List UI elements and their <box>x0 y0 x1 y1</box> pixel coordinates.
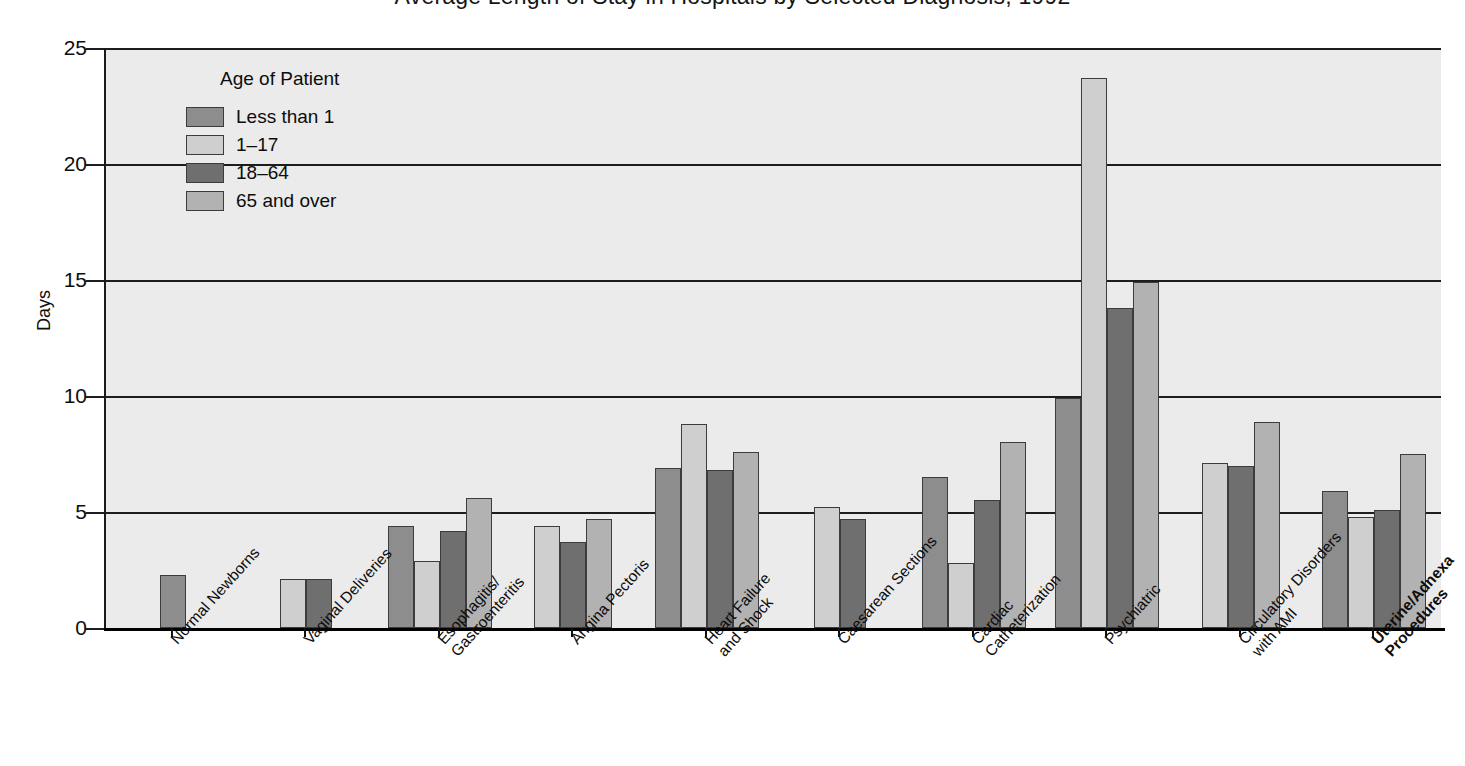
bar <box>1107 308 1133 628</box>
bar <box>1228 466 1254 628</box>
bar <box>1348 517 1374 628</box>
y-tick-label-25: 25 <box>17 37 87 58</box>
bar <box>388 526 414 628</box>
gridline-10 <box>106 396 1441 398</box>
bar <box>534 526 560 628</box>
legend-entry: 18–64 <box>186 160 436 186</box>
y-tick-label-15: 15 <box>17 269 87 290</box>
legend-swatch-icon <box>186 107 224 127</box>
legend-label: 18–64 <box>236 162 289 184</box>
legend-swatch-icon <box>186 191 224 211</box>
legend-entry: 1–17 <box>186 132 436 158</box>
y-tick-mark-0 <box>86 628 104 630</box>
y-tick-mark-5 <box>86 512 104 514</box>
bar <box>1055 398 1081 628</box>
bar <box>280 579 306 628</box>
legend-entries: Less than 11–1718–6465 and over <box>186 104 436 214</box>
y-tick-label-20: 20 <box>17 153 87 174</box>
chart-title: Average Length of Stay in Hospitals by S… <box>0 0 1465 10</box>
legend-swatch-icon <box>186 135 224 155</box>
y-tick-label-10: 10 <box>17 385 87 406</box>
legend-label: 1–17 <box>236 134 278 156</box>
bar <box>560 542 586 628</box>
legend-title: Age of Patient <box>220 68 436 90</box>
y-tick-mark-20 <box>86 164 104 166</box>
legend-entry: 65 and over <box>186 188 436 214</box>
y-tick-label-0: 0 <box>17 617 87 638</box>
legend-swatch-icon <box>186 163 224 183</box>
bar <box>814 507 840 628</box>
legend-label: 65 and over <box>236 190 336 212</box>
bar <box>948 563 974 628</box>
chart-figure: Average Length of Stay in Hospitals by S… <box>0 0 1465 766</box>
legend: Age of Patient Less than 11–1718–6465 an… <box>186 68 436 216</box>
y-tick-mark-15 <box>86 280 104 282</box>
bar <box>414 561 440 628</box>
bar <box>1081 78 1107 628</box>
bar <box>1133 282 1159 628</box>
y-tick-mark-10 <box>86 396 104 398</box>
bar <box>655 468 681 628</box>
gridline-25 <box>106 48 1441 50</box>
legend-entry: Less than 1 <box>186 104 436 130</box>
bar <box>681 424 707 628</box>
y-tick-mark-25 <box>86 48 104 50</box>
bar <box>1202 463 1228 628</box>
gridline-15 <box>106 280 1441 282</box>
legend-label: Less than 1 <box>236 106 334 128</box>
y-tick-label-5: 5 <box>17 501 87 522</box>
